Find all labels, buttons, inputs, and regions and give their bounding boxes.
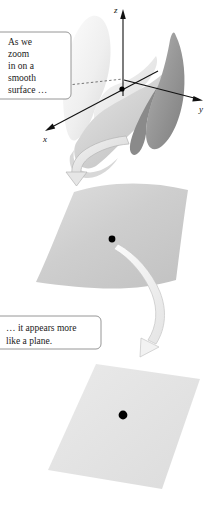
callout-top-line-2: zoom	[8, 49, 30, 59]
callout-bottom-line-1: … it appears more	[6, 323, 76, 333]
callout-bottom: … it appears more like a plane.	[0, 316, 101, 349]
flat-plane-tangency-point	[119, 411, 128, 420]
y-axis-label: y	[198, 104, 203, 114]
figure-canvas: z y x As we zoom in on a smooth surface …	[0, 0, 213, 509]
x-axis-label: x	[42, 134, 47, 144]
saddle-tangency-point	[119, 86, 124, 91]
callout-top-line-1: As we	[8, 37, 32, 47]
callout-top-line-4: smooth	[8, 73, 36, 83]
zoom-in-on-surface-figure: z y x As we zoom in on a smooth surface …	[0, 0, 213, 509]
callout-bottom-line-2: like a plane.	[6, 336, 52, 346]
z-axis-label: z	[113, 5, 118, 15]
callout-top-line-5: surface …	[8, 85, 47, 95]
callout-top: As we zoom in on a smooth surface …	[0, 32, 71, 99]
callout-top-line-3: in on a	[8, 61, 35, 71]
curved-patch-tangency-point	[109, 236, 116, 243]
